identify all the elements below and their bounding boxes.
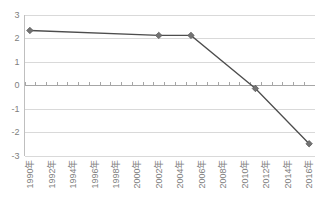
x-tick-label: 2002年 [153, 160, 164, 189]
y-tick-label: 3 [14, 10, 19, 20]
x-tick-label: 2010年 [239, 160, 250, 189]
y-tick-label: -1 [11, 104, 19, 114]
y-tick-label: 2 [14, 33, 19, 43]
x-tick-label: 1996年 [89, 160, 100, 189]
x-tick-label: 2008年 [217, 160, 228, 189]
x-tick-label: 2000年 [131, 160, 142, 189]
x-tick-label: 2012年 [260, 160, 271, 189]
chart-canvas: 3210-1-2-3 1990年1992年1994年1996年1998年2000… [0, 0, 318, 207]
y-tick-label: 1 [14, 57, 19, 67]
x-tick-label: 2014年 [282, 160, 293, 189]
x-tick-label: 1992年 [46, 160, 57, 189]
x-tick-label: 1990年 [24, 160, 35, 189]
y-tick-label: -2 [11, 127, 19, 137]
x-tick-label: 2004年 [174, 160, 185, 189]
x-tick-label: 2016年 [303, 160, 314, 189]
x-tick-label: 1998年 [110, 160, 121, 189]
y-tick-label: 0 [14, 80, 19, 90]
x-tick-label: 1994年 [67, 160, 78, 189]
x-tick-label: 2006年 [196, 160, 207, 189]
line-chart: 3210-1-2-3 1990年1992年1994年1996年1998年2000… [0, 0, 318, 207]
y-tick-label: -3 [11, 151, 19, 161]
